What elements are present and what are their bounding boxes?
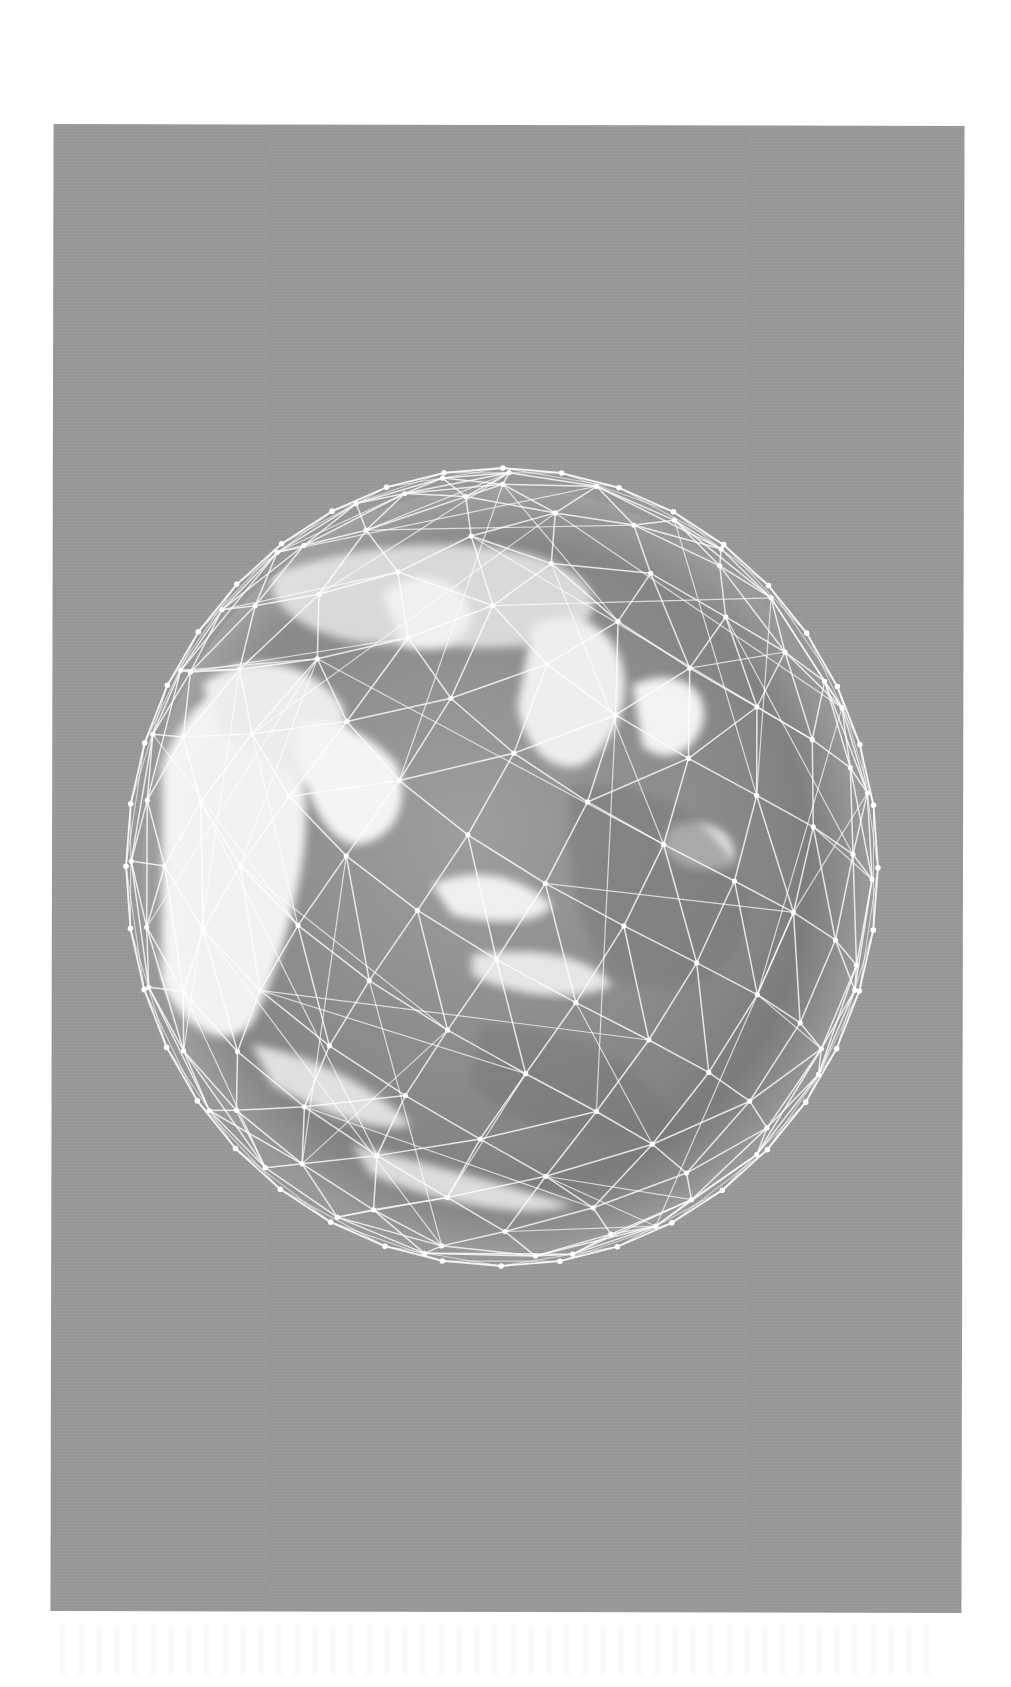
network-node [164,1045,170,1051]
network-node [328,1219,334,1225]
network-node [764,1125,769,1130]
network-node [839,705,844,710]
network-node [615,619,620,624]
network-node [648,571,653,576]
network-node [415,908,420,913]
network-node [869,877,874,882]
network-node [445,1028,450,1033]
network-node [694,960,699,965]
network-node [689,1197,694,1202]
network-node [653,1224,658,1229]
networked-globe-image [50,124,964,1613]
network-node [848,765,853,770]
network-node [523,1071,528,1076]
network-node [439,1243,444,1248]
network-node [594,1109,599,1114]
network-node [128,926,134,932]
network-node [422,1251,427,1256]
network-node [279,541,285,547]
network-node [445,1195,450,1200]
network-node [188,669,193,674]
network-node [315,656,320,661]
network-node [219,607,224,612]
network-node [142,740,148,746]
network-node [553,510,558,515]
print-bleed-through [60,1625,940,1675]
network-node [765,1147,771,1153]
network-node [594,484,599,489]
network-node [686,756,691,761]
network-node [364,528,369,533]
network-node [590,1205,595,1210]
network-node [720,1187,726,1193]
network-node [865,790,870,795]
network-node [833,937,838,942]
network-node [754,704,759,709]
network-node [195,629,201,635]
network-node [543,1174,548,1179]
network-node [494,957,499,962]
network-node [123,863,129,869]
network-node [382,1243,388,1249]
network-node [405,635,410,640]
network-node [621,923,626,928]
gray-background-panel [50,124,964,1613]
network-node [723,614,728,619]
network-node [721,542,727,548]
network-node [463,494,468,499]
network-node [469,533,474,538]
network-node [669,1220,675,1226]
network-node [835,684,841,690]
network-node [791,910,796,915]
network-node [585,799,590,804]
network-node [287,794,292,799]
network-node [498,1263,504,1269]
network-node [402,491,407,496]
network-node [533,1253,538,1258]
network-node [344,719,349,724]
network-node [301,543,306,548]
network-node [371,1207,376,1212]
network-node [782,649,787,654]
network-node [150,732,155,737]
network-node [403,1093,408,1098]
network-node [195,1098,201,1104]
network-node [854,963,859,968]
network-node [684,1170,689,1175]
network-node [490,603,495,608]
network-node [717,563,722,568]
network-node [870,927,876,933]
network-node [448,696,453,701]
network-node [544,662,549,667]
network-node [608,1232,613,1237]
network-node [798,1020,803,1025]
network-node [500,482,505,487]
figure-description: Grayscale photo of planet Earth viewed f… [0,0,1,1]
network-node [857,742,863,748]
network-node [755,992,760,997]
network-node [145,798,150,803]
network-node [687,666,692,671]
network-node [181,734,186,739]
network-node [747,1099,752,1104]
network-node [198,799,203,804]
network-node [646,1037,651,1042]
network-node [850,852,855,857]
network-node [263,1165,268,1170]
network-node [335,1215,340,1220]
network-node [768,595,773,600]
network-node [613,712,618,717]
network-node [857,988,863,994]
network-node [237,667,242,672]
network-node [822,679,827,684]
network-node [650,1142,655,1147]
network-node [478,1136,483,1141]
network-node [397,778,402,783]
network-node [672,518,677,523]
network-node [178,668,183,673]
network-node [834,1046,840,1052]
network-node [165,682,171,688]
network-node [374,1153,379,1158]
network-node [201,927,206,932]
network-node [233,1146,239,1152]
